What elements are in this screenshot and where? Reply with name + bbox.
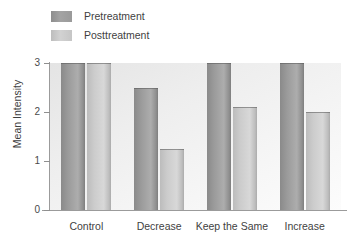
bar-pretreatment	[207, 63, 231, 210]
legend-label-posttreatment: Posttreatment	[84, 30, 149, 41]
bar-top-edge	[87, 63, 111, 64]
bar-pretreatment	[134, 88, 158, 211]
bar-top-edge	[233, 107, 257, 108]
chart-legend: Pretreatment Posttreatment	[51, 8, 251, 46]
y-axis-line	[49, 62, 50, 211]
y-tick-mark	[44, 210, 50, 211]
bar-top-edge	[280, 63, 304, 64]
y-axis-label: Mean Intensity	[11, 64, 23, 164]
bar-posttreatment	[160, 149, 184, 210]
bar-top-edge	[134, 88, 158, 89]
y-tick-label: 1	[26, 156, 40, 166]
y-tick-mark	[44, 161, 50, 162]
bar-top-edge	[207, 63, 231, 64]
legend-swatch-pretreatment	[51, 11, 72, 22]
bar-posttreatment	[233, 107, 257, 210]
y-tick-label: 3	[26, 58, 40, 68]
plot-area	[50, 63, 341, 210]
bar-chart-figure: Pretreatment Posttreatment 0123 Mean Int…	[0, 0, 354, 246]
bar-posttreatment	[87, 63, 111, 210]
y-tick-mark	[44, 63, 50, 64]
x-axis-line	[42, 210, 347, 211]
x-axis-label-increase: Increase	[255, 220, 354, 232]
bar-pretreatment	[61, 63, 85, 210]
bar-top-edge	[160, 149, 184, 150]
bar-pretreatment	[280, 63, 304, 210]
legend-label-pretreatment: Pretreatment	[84, 11, 145, 22]
bar-top-edge	[61, 63, 85, 64]
legend-item-pretreatment: Pretreatment	[51, 8, 251, 24]
y-tick-label: 2	[26, 107, 40, 117]
y-tick-mark	[44, 112, 50, 113]
y-tick-label: 0	[26, 205, 40, 215]
bar-top-edge	[306, 112, 330, 113]
bar-posttreatment	[306, 112, 330, 210]
legend-item-posttreatment: Posttreatment	[51, 27, 251, 43]
legend-swatch-posttreatment	[51, 30, 72, 41]
